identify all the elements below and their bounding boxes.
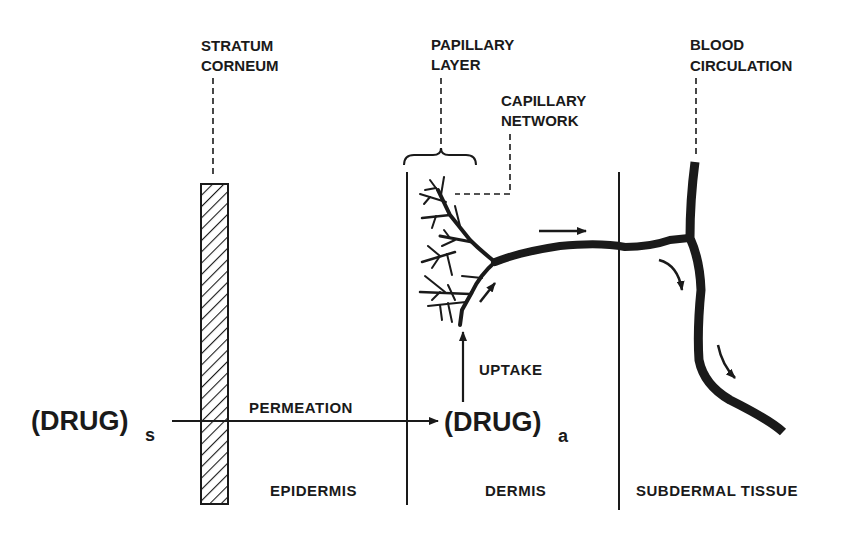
blood-circulation-label-line1: BLOOD [690, 36, 744, 53]
subdermal-tissue-label: SUBDERMAL TISSUE [636, 482, 798, 499]
flow-arrow-curved-1 [659, 260, 682, 290]
uptake-label: UPTAKE [479, 361, 543, 378]
blood-vessel-vertical [690, 162, 783, 432]
capillary-network-leader-line [455, 134, 510, 194]
blood-circulation-label: BLOOD CIRCULATION [690, 36, 792, 74]
capillary-network-label-line1: CAPILLARY [501, 92, 586, 109]
flow-arrow-curved-2 [718, 345, 735, 378]
stratum-corneum-label-line2: CORNEUM [201, 57, 279, 74]
stratum-corneum-bar [201, 184, 228, 504]
papillary-layer-brace [404, 148, 476, 165]
capillary-network-label-line2: NETWORK [501, 112, 579, 129]
drug-absorbed-text: (DRUG) [444, 407, 541, 437]
blood-vessel-horizontal [495, 238, 689, 262]
papillary-layer-label-line2: LAYER [431, 56, 481, 73]
drug-absorbed-subscript: a [558, 426, 569, 446]
drug-absorbed-label: (DRUG) a [444, 407, 569, 446]
capillary-network-icon [420, 177, 495, 325]
papillary-layer-label: PAPILLARY LAYER [431, 36, 514, 73]
epidermis-label: EPIDERMIS [270, 482, 357, 499]
papillary-layer-label-line1: PAPILLARY [431, 36, 514, 53]
drug-source-text: (DRUG) [31, 406, 128, 436]
drug-source-subscript: s [145, 425, 155, 445]
permeation-label: PERMEATION [249, 399, 353, 416]
skin-drug-permeation-diagram: STRATUM CORNEUM PAPILLARY LAYER CAPILLAR… [0, 0, 865, 535]
dermis-label: DERMIS [485, 482, 546, 499]
drug-source-label: (DRUG) s [31, 406, 155, 445]
stratum-corneum-label: STRATUM CORNEUM [201, 37, 279, 74]
blood-circulation-label-line2: CIRCULATION [690, 57, 792, 74]
capillary-network-label: CAPILLARY NETWORK [501, 92, 586, 129]
flow-arrow-up-to-vessel [480, 283, 495, 302]
stratum-corneum-label-line1: STRATUM [201, 37, 273, 54]
